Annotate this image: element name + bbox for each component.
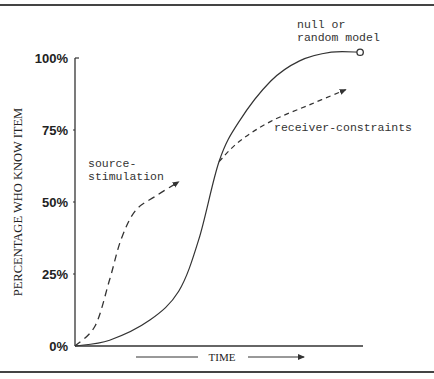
- annotation-receiver: receiver-constraints: [274, 121, 412, 134]
- series-layer: [75, 49, 363, 346]
- x-axis-label: TIME: [209, 351, 236, 363]
- open-circle-endpoint-icon: [357, 49, 363, 55]
- diffusion-chart: 0%25%50%75%100% PERCENTAGE WHO KNOW ITEM…: [0, 0, 434, 379]
- y-tick-label: 75%: [42, 123, 68, 138]
- series-line-source-stimulation: [75, 182, 179, 346]
- annotation-null-line2: random model: [297, 31, 380, 44]
- annotation-source-line2: stimulation: [88, 170, 164, 183]
- annotation-null-line1: null or: [297, 18, 345, 31]
- y-tick-label: 100%: [35, 51, 69, 66]
- y-tick-label: 0%: [49, 339, 68, 354]
- annotation-source-line1: source-: [88, 157, 136, 170]
- y-tick-label: 50%: [42, 195, 68, 210]
- series-line-null-or-random-model: [75, 52, 360, 346]
- y-axis-label: PERCENTAGE WHO KNOW ITEM: [11, 108, 25, 296]
- x-axis-label-group: TIME: [136, 351, 304, 363]
- y-ticks: 0%25%50%75%100%: [35, 51, 79, 354]
- y-tick-label: 25%: [42, 267, 68, 282]
- axes: [75, 58, 363, 346]
